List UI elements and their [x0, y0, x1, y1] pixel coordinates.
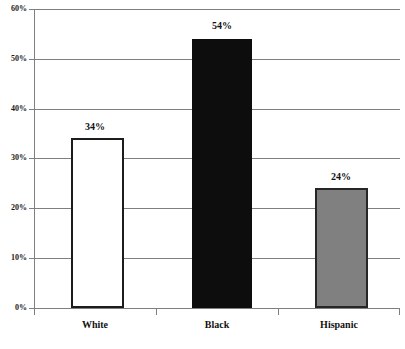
- y-tick-label-10: 10%: [0, 254, 27, 262]
- y-tick-label-0: 0%: [0, 304, 27, 312]
- x-axis-line: [34, 308, 400, 309]
- x-axis-label-white: White: [82, 320, 108, 330]
- x-tick-mark-3: [399, 308, 400, 315]
- x-tick-mark-0: [34, 308, 35, 315]
- y-tick-label-20: 20%: [0, 204, 27, 212]
- bar-value-hispanic: 24%: [331, 172, 351, 182]
- bar-white[interactable]: [71, 138, 124, 308]
- bar-value-white: 34%: [85, 122, 105, 132]
- bars-group: [34, 9, 400, 308]
- y-tick-label-40: 40%: [0, 105, 27, 113]
- x-axis-label-hispanic: Hispanic: [320, 320, 358, 330]
- bar-chart: 60% 50% 40% 30% 20% 10% 0% 34% 54% 24% W…: [0, 0, 405, 349]
- y-tick-label-30: 30%: [0, 154, 27, 162]
- bar-hispanic[interactable]: [315, 188, 368, 308]
- bar-black[interactable]: [192, 39, 252, 308]
- bar-value-black: 54%: [212, 21, 232, 31]
- y-tick-label-60: 60%: [0, 5, 27, 13]
- x-axis-label-black: Black: [205, 320, 229, 330]
- y-tick-label-50: 50%: [0, 55, 27, 63]
- x-tick-mark-2: [278, 308, 279, 315]
- x-tick-mark-1: [156, 308, 157, 315]
